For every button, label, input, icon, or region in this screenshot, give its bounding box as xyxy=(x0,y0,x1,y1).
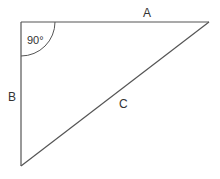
side-b-label: B xyxy=(8,90,16,104)
side-a-label: A xyxy=(143,6,151,20)
side-c-label: C xyxy=(119,97,128,111)
side-c-hypotenuse-line xyxy=(21,22,209,166)
right-triangle-diagram: 90° A B C xyxy=(0,0,220,179)
angle-label: 90° xyxy=(27,34,44,46)
